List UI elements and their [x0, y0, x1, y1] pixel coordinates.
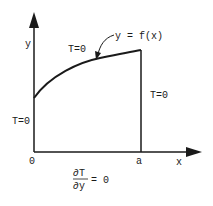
top-boundary-condition: T=0	[68, 44, 86, 55]
left-boundary-condition: T=0	[12, 116, 30, 127]
bottom-condition-numerator: ∂T	[73, 168, 85, 179]
x-axis-arrowhead-icon	[186, 147, 202, 157]
curve-label: y = f(x)	[115, 31, 163, 42]
x-axis-label: x	[176, 157, 182, 168]
a-label: a	[136, 156, 142, 167]
boundary-curve	[34, 50, 141, 98]
origin-label: 0	[29, 156, 35, 167]
y-axis-arrowhead-icon	[29, 12, 39, 28]
bottom-condition-rhs: = 0	[91, 175, 109, 186]
y-axis-label: y	[25, 39, 31, 50]
bottom-condition-denominator: ∂y	[73, 181, 85, 192]
curve-pointer-arrow	[98, 35, 114, 54]
right-boundary-condition: T=0	[150, 90, 168, 101]
heat-conduction-domain-diagram: y x 0 a y = f(x) T=0 T=0 T=0 ∂T ∂y = 0	[0, 0, 213, 206]
